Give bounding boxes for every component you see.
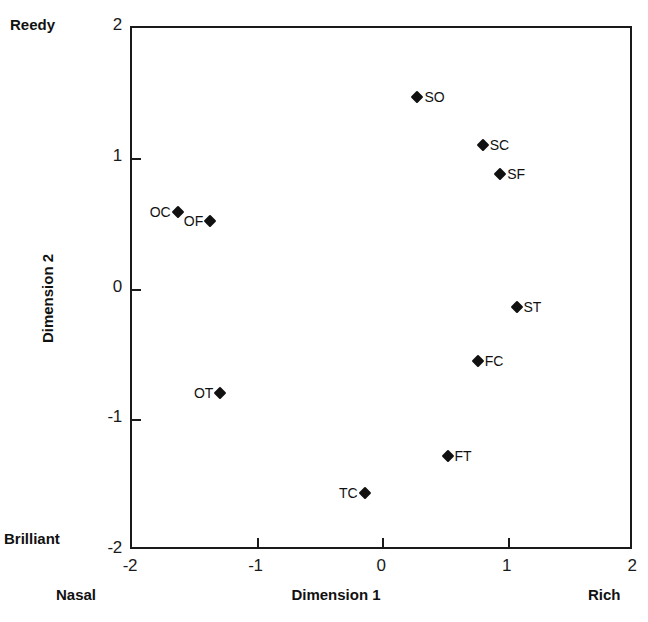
x-axis-title: Dimension 1 [0,586,648,603]
y-axis-bottom-pole-label: Brilliant [4,530,60,547]
y-axis-tick-label: 2 [82,15,122,35]
x-axis-tick [508,538,510,547]
x-axis-tick-label: 1 [487,556,527,576]
y-axis-tick [132,289,141,291]
y-axis-tick-label: -2 [82,538,122,558]
x-axis-right-pole-label: Rich [588,586,621,603]
data-point-label: SO [424,90,444,104]
data-point-label: OC [150,205,171,219]
data-point-label: SC [490,138,509,152]
y-axis-tick-label: -1 [82,407,122,427]
x-axis-tick-label: -2 [110,556,150,576]
y-axis-tick-label: 0 [82,277,122,297]
data-point-label: ST [524,300,542,314]
data-point-label: OF [184,214,203,228]
data-point-label: TC [339,486,358,500]
x-axis-tick-label: 2 [612,556,648,576]
x-axis-tick-label: 0 [361,556,401,576]
data-point-label: FT [455,449,472,463]
x-axis-tick [382,538,384,547]
y-axis-tick-label: 1 [82,146,122,166]
y-axis-tick [132,419,141,421]
data-point-label: FC [485,354,504,368]
y-axis-title: Dimension 2 [39,239,56,359]
y-axis-tick [132,158,141,160]
plot-area [130,26,632,549]
data-point-label: SF [507,167,525,181]
data-point-label: OT [194,386,213,400]
x-axis-tick [257,538,259,547]
y-axis-top-pole-label: Reedy [10,16,55,33]
x-axis-tick-label: -1 [236,556,276,576]
x-axis-left-pole-label: Nasal [56,586,96,603]
scatter-plot-figure: -2-1012210-1-2SOSCSFOCOFSTFCOTFTTC Dimen… [0,0,648,622]
